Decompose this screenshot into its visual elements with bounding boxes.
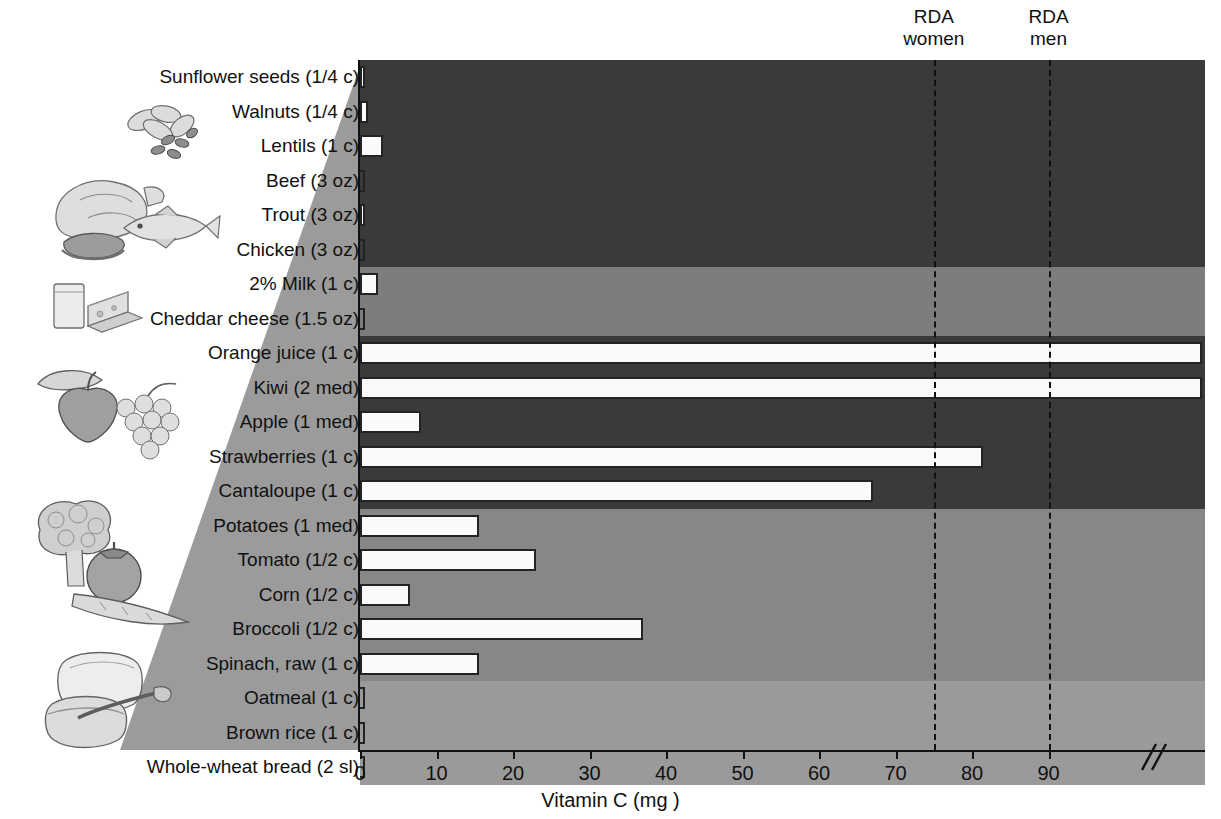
category-label: Potatoes (1 med) xyxy=(213,509,359,544)
chart-row: Oatmeal (1 c) xyxy=(0,681,1221,716)
rda-women-caption-line2: women xyxy=(874,28,994,50)
chart-row: Beef (3 oz) xyxy=(0,164,1221,199)
rda-men-caption-line2: men xyxy=(989,28,1109,50)
x-axis-line xyxy=(360,750,1205,752)
bar-cheddar xyxy=(360,308,365,330)
category-rows: Sunflower seeds (1/4 c)Walnuts (1/4 c)Le… xyxy=(0,60,1221,750)
x-axis-title: Vitamin C (mg ) xyxy=(0,789,1221,812)
chart-row: Trout (3 oz) xyxy=(0,198,1221,233)
x-tick-label: 70 xyxy=(876,762,916,785)
category-label: Oatmeal (1 c) xyxy=(244,681,359,716)
category-label: Kiwi (2 med) xyxy=(253,371,359,406)
x-tick-label: 10 xyxy=(417,762,457,785)
chart-row: Corn (1/2 c) xyxy=(0,578,1221,613)
category-label: Corn (1/2 c) xyxy=(259,578,359,613)
x-tick xyxy=(360,750,362,759)
category-label: Whole-wheat bread (2 sl) xyxy=(147,750,359,785)
category-label: Sunflower seeds (1/4 c) xyxy=(159,60,359,95)
bar-chicken xyxy=(360,239,365,261)
category-label: Strawberries (1 c) xyxy=(209,440,359,475)
x-tick xyxy=(666,750,668,759)
chart-row: Kiwi (2 med) xyxy=(0,371,1221,406)
x-tick-label: 90 xyxy=(1029,762,1069,785)
category-label: Cantaloupe (1 c) xyxy=(219,474,359,509)
x-tick xyxy=(972,750,974,759)
x-tick-label: 40 xyxy=(646,762,686,785)
chart-row: 2% Milk (1 c) xyxy=(0,267,1221,302)
category-label: Apple (1 med) xyxy=(240,405,359,440)
x-axis-break-icon xyxy=(1136,742,1176,772)
bar-orange xyxy=(360,342,1202,364)
chart-row: Cantaloupe (1 c) xyxy=(0,474,1221,509)
chart-row: Orange juice (1 c) xyxy=(0,336,1221,371)
x-tick-label: 80 xyxy=(952,762,992,785)
x-tick-label: 20 xyxy=(493,762,533,785)
chart-row: Spinach, raw (1 c) xyxy=(0,647,1221,682)
category-label: Walnuts (1/4 c) xyxy=(232,95,359,130)
y-axis-line xyxy=(358,60,360,752)
category-label: Tomato (1/2 c) xyxy=(238,543,359,578)
bar-strawberries xyxy=(360,446,983,468)
x-tick xyxy=(896,750,898,759)
rda-women-line xyxy=(934,60,936,750)
chart-row: Brown rice (1 c) xyxy=(0,716,1221,751)
bar-brown xyxy=(360,722,365,744)
x-tick xyxy=(513,750,515,759)
category-label: Spinach, raw (1 c) xyxy=(206,647,359,682)
chart-row: Tomato (1/2 c) xyxy=(0,543,1221,578)
x-tick xyxy=(590,750,592,759)
category-label: Broccoli (1/2 c) xyxy=(232,612,359,647)
x-tick-label: 50 xyxy=(723,762,763,785)
bar-oatmeal xyxy=(360,687,365,709)
bar-cantaloupe xyxy=(360,480,873,502)
category-label: Lentils (1 c) xyxy=(261,129,359,164)
bar-kiwi xyxy=(360,377,1202,399)
x-tick xyxy=(1049,750,1051,759)
rda-men-line xyxy=(1049,60,1051,750)
rda-men-caption: RDA men xyxy=(989,6,1109,50)
bar-apple xyxy=(360,411,421,433)
chart-row: Sunflower seeds (1/4 c) xyxy=(0,60,1221,95)
rda-women-caption-line1: RDA xyxy=(874,6,994,28)
bar-potatoes xyxy=(360,515,479,537)
chart-row: Walnuts (1/4 c) xyxy=(0,95,1221,130)
category-label: Cheddar cheese (1.5 oz) xyxy=(150,302,359,337)
x-tick xyxy=(743,750,745,759)
bar-lentils xyxy=(360,135,383,157)
category-label: Brown rice (1 c) xyxy=(226,716,359,751)
category-label: Chicken (3 oz) xyxy=(237,233,360,268)
category-label: Trout (3 oz) xyxy=(262,198,360,233)
x-tick-label: 0 xyxy=(340,762,380,785)
category-label: Orange juice (1 c) xyxy=(208,336,359,371)
bar-beef xyxy=(360,170,365,192)
chart-row: Chicken (3 oz) xyxy=(0,233,1221,268)
bar-tomato xyxy=(360,549,536,571)
bar-walnuts xyxy=(360,101,368,123)
bar-broccoli xyxy=(360,618,643,640)
bar-spinach xyxy=(360,653,479,675)
rda-women-caption: RDA women xyxy=(874,6,994,50)
chart-row: Strawberries (1 c) xyxy=(0,440,1221,475)
bar-trout xyxy=(360,204,365,226)
chart-row: Apple (1 med) xyxy=(0,405,1221,440)
bar-% xyxy=(360,273,378,295)
bar-corn xyxy=(360,584,410,606)
chart-row: Potatoes (1 med) xyxy=(0,509,1221,544)
x-tick xyxy=(437,750,439,759)
category-label: 2% Milk (1 c) xyxy=(249,267,359,302)
x-tick-label: 30 xyxy=(570,762,610,785)
chart-row: Broccoli (1/2 c) xyxy=(0,612,1221,647)
x-tick-label: 60 xyxy=(799,762,839,785)
chart-row: Lentils (1 c) xyxy=(0,129,1221,164)
chart-row: Cheddar cheese (1.5 oz) xyxy=(0,302,1221,337)
vitamin-c-bar-chart: RDA women RDA men Sunflower seeds (1/4 c… xyxy=(0,0,1221,819)
rda-men-caption-line1: RDA xyxy=(989,6,1109,28)
x-tick xyxy=(819,750,821,759)
bar-sunflower xyxy=(360,66,365,88)
category-label: Beef (3 oz) xyxy=(266,164,359,199)
